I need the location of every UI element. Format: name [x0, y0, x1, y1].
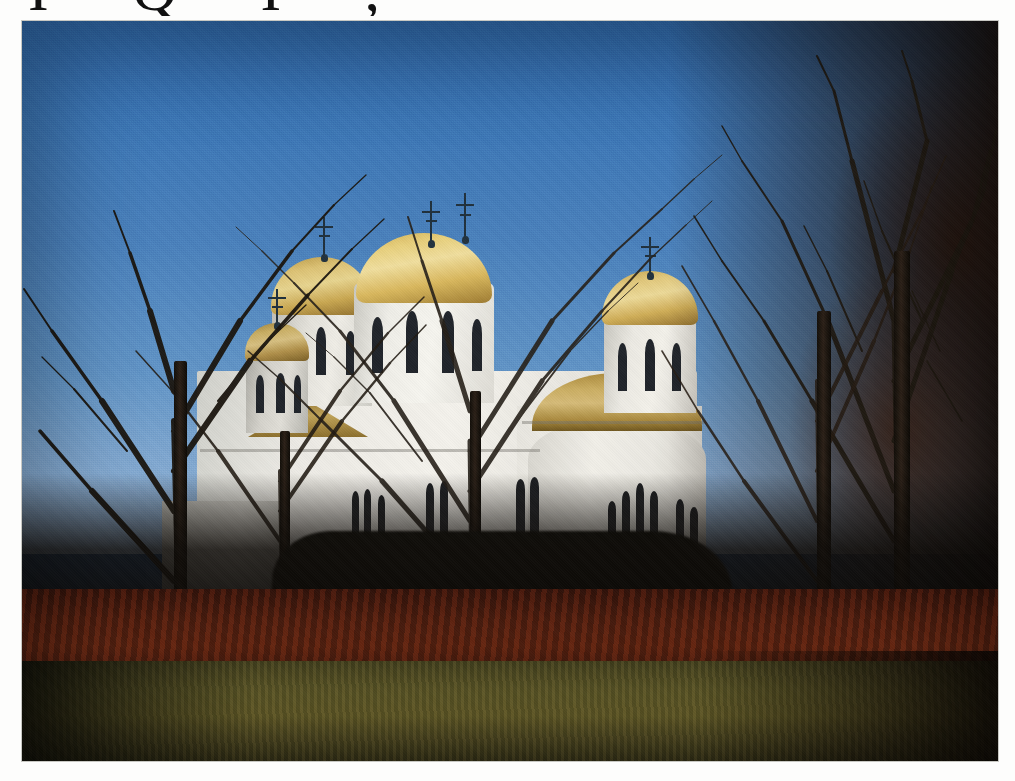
lawn-shadow-right [698, 651, 998, 761]
scanned-page: I Q I , [0, 0, 1015, 781]
cross-left-tower [268, 289, 286, 327]
cross-right-tower [640, 237, 660, 277]
cross-arm-upper [456, 204, 474, 206]
drum-window [256, 375, 264, 413]
cross-arm-lower [460, 214, 471, 216]
cross-arm-upper [268, 297, 286, 299]
cross-arm-upper [422, 211, 440, 213]
cross-base-finial [274, 322, 281, 330]
drum-window [472, 319, 482, 371]
cross-main-dome-left [420, 201, 442, 245]
cross-vertical [464, 193, 466, 241]
cross-main-dome-right [454, 193, 476, 241]
lawn-shadow-left [22, 661, 252, 761]
cross-base-finial [321, 254, 328, 262]
cut-off-header-band: I Q I , [0, 0, 1015, 16]
cross-arm-lower [645, 255, 656, 257]
cross-base-finial [462, 236, 469, 244]
drum-window [406, 311, 418, 373]
cross-arm-upper [641, 246, 659, 248]
cross-base-finial [647, 272, 654, 280]
drum-window [645, 339, 655, 391]
cross-arm-lower [272, 306, 283, 308]
cut-off-header-text: I Q I , [28, 0, 414, 16]
cross-arm-lower [319, 235, 330, 237]
drum-window [442, 311, 454, 373]
cross-vertical [430, 201, 432, 245]
cross-vertical [649, 237, 651, 277]
drum-window [294, 375, 301, 413]
cross-arm-upper [315, 226, 333, 228]
cross-base-finial [428, 240, 435, 248]
cross-secondary-dome [314, 217, 334, 259]
cross-arm-lower [426, 220, 437, 222]
orthodox-church-photo [22, 21, 998, 761]
left-tower-drum [246, 351, 308, 433]
cross-vertical [323, 217, 325, 259]
photograph-frame [22, 21, 998, 761]
drum-window [316, 327, 326, 375]
cornice-line [200, 449, 540, 452]
drum-window [372, 317, 383, 373]
drum-window [276, 373, 285, 413]
drum-window [618, 343, 627, 391]
